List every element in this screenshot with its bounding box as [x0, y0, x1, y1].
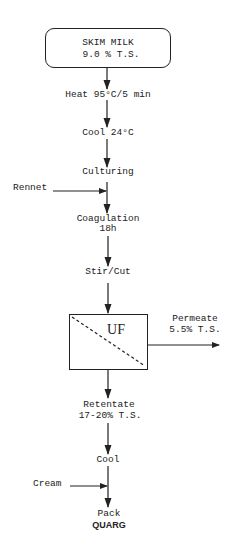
step-cool: Cool	[97, 455, 120, 465]
step-coagulation-time: 18h	[99, 224, 116, 234]
skim-milk-label: SKIM MILK	[82, 38, 133, 48]
output-permeate-ts: 5.5% T.S.	[169, 325, 220, 335]
uf-label: UF	[107, 323, 125, 337]
output-permeate: Permeate	[172, 314, 218, 324]
skim-milk-box	[45, 28, 171, 68]
input-cream: Cream	[33, 479, 62, 489]
step-cool-24: Cool 24°C	[82, 128, 133, 138]
product-quarg: QUARG	[92, 520, 126, 530]
input-rennet: Rennet	[13, 183, 47, 193]
step-heat: Heat 95°C/5 min	[65, 90, 151, 100]
step-culturing: Culturing	[82, 167, 133, 177]
step-retentate: Retentate	[83, 400, 134, 410]
step-retentate-ts: 17-20% T.S.	[79, 411, 142, 421]
skim-milk-ts: 9.0 % T.S.	[82, 50, 139, 60]
step-stir-cut: Stir/Cut	[85, 267, 131, 277]
step-pack: Pack	[98, 509, 121, 519]
